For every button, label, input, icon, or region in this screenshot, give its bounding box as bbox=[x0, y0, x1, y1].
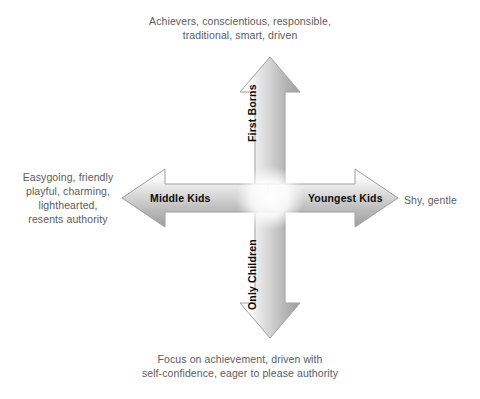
description-top: Achievers, conscientious, responsible, t… bbox=[0, 14, 480, 42]
description-left: Easygoing, friendly playful, charming, l… bbox=[6, 170, 130, 226]
arrow-label-middle-kids: Middle Kids bbox=[150, 192, 230, 204]
arrow-label-youngest-kids: Youngest Kids bbox=[308, 192, 398, 204]
description-right: Shy, gentle bbox=[404, 193, 480, 207]
cross-center-highlight bbox=[236, 166, 304, 230]
description-bottom: Focus on achievement, driven with self-c… bbox=[0, 352, 480, 380]
diagram-canvas: First Borns Only Children Middle Kids Yo… bbox=[0, 0, 480, 399]
arrow-label-first-borns: First Borns bbox=[238, 114, 302, 142]
arrow-label-only-children: Only Children bbox=[232, 270, 308, 310]
